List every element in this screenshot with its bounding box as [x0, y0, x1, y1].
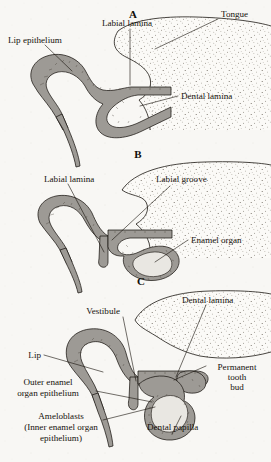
label-tongue-a: Tongue — [221, 9, 248, 19]
svg-text:Permanent: Permanent — [218, 362, 257, 372]
label-dental-lamina-a: Dental lamina — [181, 91, 232, 101]
vestibule-c — [128, 377, 138, 410]
figure-page: A Labial lamina Tongue Lip epithelium De… — [0, 0, 271, 462]
label-labial-lamina-b: Labial lamina — [44, 174, 94, 184]
label-enamel-organ-b: Enamel organ — [191, 235, 242, 245]
label-vestibule-c: Vestibule — [86, 306, 120, 316]
labial-groove-b — [99, 236, 108, 267]
svg-text:bud: bud — [230, 382, 244, 392]
svg-text:(Inner enamel organ: (Inner enamel organ — [24, 422, 98, 432]
svg-text:organ epithelium: organ epithelium — [17, 388, 79, 398]
label-dental-papilla-c: Dental papilla — [147, 422, 198, 432]
panel-letter-c: C — [137, 275, 145, 287]
label-outer-enamel-organ-epithelium-c: Outer enamel organ epithelium — [17, 377, 79, 398]
label-lip-c: Lip — [28, 350, 41, 360]
svg-text:tooth: tooth — [228, 372, 247, 382]
svg-text:Outer enamel: Outer enamel — [23, 377, 73, 387]
tooth-development-figure: A Labial lamina Tongue Lip epithelium De… — [0, 0, 271, 462]
label-dental-lamina-c: Dental lamina — [182, 295, 233, 305]
svg-text:epithelium): epithelium) — [40, 433, 82, 443]
svg-text:Ameloblasts: Ameloblasts — [38, 411, 84, 421]
label-lip-epithelium-a: Lip epithelium — [8, 35, 62, 45]
panel-letter-b: B — [134, 148, 142, 160]
label-labial-groove-b: Labial groove — [156, 174, 207, 184]
label-labial-lamina-a: Labial lamina — [102, 18, 152, 28]
